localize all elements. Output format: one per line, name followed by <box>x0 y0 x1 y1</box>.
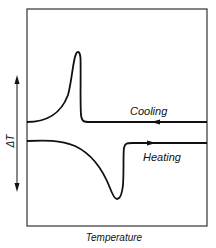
heating-label: Heating <box>143 151 182 163</box>
cooling-label: Cooling <box>130 105 168 117</box>
cooling-arrow-icon <box>151 120 160 125</box>
heating-arrow-icon <box>147 141 156 146</box>
delta-t-label: ΔT <box>5 134 16 149</box>
delta-t-axis-arrow <box>15 75 20 192</box>
temperature-axis-label: Temperature <box>86 232 143 243</box>
cooling-curve <box>27 52 207 122</box>
heating-curve <box>27 141 207 199</box>
plot-frame <box>27 9 207 226</box>
dta-diagram: Cooling Heating ΔT Temperature <box>0 0 216 248</box>
